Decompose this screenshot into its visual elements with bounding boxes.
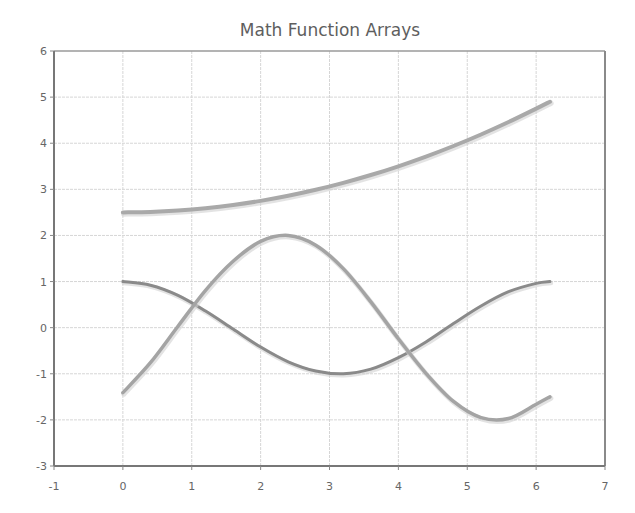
series-shadow <box>124 103 551 214</box>
series-cosine <box>123 282 551 376</box>
series-shadow <box>124 283 551 375</box>
y-tick-label: 3 <box>40 183 47 196</box>
y-tick-label: 0 <box>40 322 47 335</box>
series-quadratic <box>123 102 551 214</box>
x-tick-label: 4 <box>395 480 402 493</box>
series-shifted-sine <box>123 235 551 421</box>
y-tick-label: 1 <box>40 276 47 289</box>
tick-labels: -3-2-10123456-101234567 <box>36 45 608 493</box>
series-line <box>123 102 550 213</box>
x-tick-label: 5 <box>464 480 471 493</box>
y-tick-label: -3 <box>36 460 47 473</box>
y-tick-label: 6 <box>40 45 47 58</box>
x-tick-label: -1 <box>49 480 60 493</box>
y-tick-label: -1 <box>36 368 47 381</box>
y-tick-label: 2 <box>40 229 47 242</box>
y-tick-label: 5 <box>40 91 47 104</box>
y-tick-label: 4 <box>40 137 47 150</box>
x-tick-label: 0 <box>119 480 126 493</box>
y-tick-label: -2 <box>36 414 47 427</box>
x-tick-label: 3 <box>326 480 333 493</box>
x-tick-label: 6 <box>533 480 540 493</box>
line-chart: -3-2-10123456-101234567 <box>0 0 635 513</box>
x-tick-label: 2 <box>257 480 264 493</box>
x-tick-label: 1 <box>188 480 195 493</box>
x-tick-label: 7 <box>602 480 609 493</box>
